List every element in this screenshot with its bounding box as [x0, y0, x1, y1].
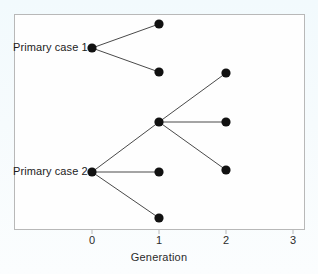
transmission-tree-figure: Primary case 1 Primary case 2 0 1 2 3 Ge…: [0, 0, 318, 274]
x-axis-title: Generation: [0, 251, 318, 263]
x-tick-label-2: 2: [223, 234, 229, 246]
x-tick-label-3: 3: [290, 234, 296, 246]
primary-case-1-label: Primary case 1: [13, 41, 88, 53]
x-tick-label-1: 1: [156, 234, 162, 246]
axis-tick-marks: [92, 230, 293, 234]
primary-case-2-label: Primary case 2: [13, 165, 88, 177]
x-tick-label-0: 0: [89, 234, 95, 246]
